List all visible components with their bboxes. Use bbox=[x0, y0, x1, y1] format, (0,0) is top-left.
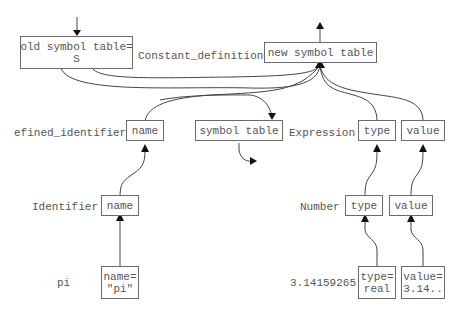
arrowhead-icon bbox=[268, 113, 276, 120]
identifier-label: Identifier bbox=[32, 201, 98, 213]
arrowhead-icon bbox=[250, 157, 257, 165]
expression-type-box: type bbox=[358, 120, 396, 141]
expression-value-box: value bbox=[401, 120, 445, 141]
pi-name-box: name= "pi" bbox=[101, 266, 139, 299]
number-token-label: 3.14159265 bbox=[290, 277, 356, 289]
arrowhead-icon bbox=[316, 22, 324, 29]
number-value-box: value bbox=[389, 195, 433, 216]
number-label: Number bbox=[300, 201, 340, 213]
new-symbol-table-box: new symbol table bbox=[264, 42, 377, 63]
constant-definition-label: Constant_definition bbox=[138, 50, 263, 62]
defined-identifier-name-box: name bbox=[126, 120, 164, 141]
leaf-value-box: value= 3.14.. bbox=[401, 266, 445, 299]
expression-label: Expression bbox=[289, 127, 355, 139]
arrowhead-icon bbox=[419, 144, 427, 152]
defined-identifier-label: efined_identifier bbox=[14, 127, 126, 139]
symbol-table-box: symbol table bbox=[195, 120, 283, 141]
identifier-name-box: name bbox=[101, 195, 139, 216]
arrowhead-icon bbox=[373, 144, 381, 152]
pi-token-label: pi bbox=[57, 277, 70, 289]
leaf-type-box: type= real bbox=[358, 266, 396, 299]
old-symbol-table-box: old symbol table= S bbox=[20, 36, 133, 69]
arrowhead-icon bbox=[141, 144, 149, 152]
number-type-box: type bbox=[345, 195, 383, 216]
attribute-grammar-diagram: old symbol table= S Constant_definition … bbox=[0, 0, 461, 314]
